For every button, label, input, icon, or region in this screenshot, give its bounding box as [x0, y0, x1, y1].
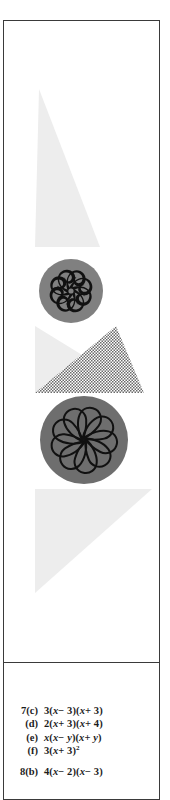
- answer-label: (f): [4, 744, 44, 757]
- answer-label: (e): [4, 731, 44, 744]
- answer-group: 7(c)3(x− 3)(x+ 3)(d)2(x+ 3)(x+ 4)(e)x(x−…: [4, 704, 159, 758]
- answer-expression: 3(x+ 3)2: [44, 744, 80, 757]
- page-frame: 7(c)3(x− 3)(x+ 3)(d)2(x+ 3)(x+ 4)(e)x(x−…: [3, 20, 160, 800]
- answer-key-block: 7(c)3(x− 3)(x+ 3)(d)2(x+ 3)(x+ 4)(e)x(x−…: [4, 662, 159, 778]
- answer-expression: 3(x− 3)(x+ 3): [44, 704, 103, 717]
- spiral-rosette-medallion: [39, 259, 103, 323]
- answer-line: 8(b)4(x− 2)(x− 3): [4, 765, 159, 778]
- answer-label: 7(c): [4, 704, 44, 717]
- answer-expression: x(x− y)(x+ y): [44, 731, 102, 744]
- answer-label: (d): [4, 717, 44, 730]
- answer-line: (d)2(x+ 3)(x+ 4): [4, 717, 159, 730]
- answer-line: 7(c)3(x− 3)(x+ 3): [4, 704, 159, 717]
- figure-panel: [4, 21, 159, 661]
- answer-line: (f)3(x+ 3)2: [4, 744, 159, 757]
- page-top-margin: [0, 0, 170, 20]
- answer-expression: 4(x− 2)(x− 3): [44, 765, 103, 778]
- petal-rosette-medallion: [40, 396, 128, 484]
- answer-group: 8(b)4(x− 2)(x− 3): [4, 765, 159, 778]
- answer-label: 8(b): [4, 765, 44, 778]
- ornament-figure-svg: [4, 21, 159, 661]
- answer-line: (e)x(x− y)(x+ y): [4, 731, 159, 744]
- answer-expression: 2(x+ 3)(x+ 4): [44, 717, 103, 730]
